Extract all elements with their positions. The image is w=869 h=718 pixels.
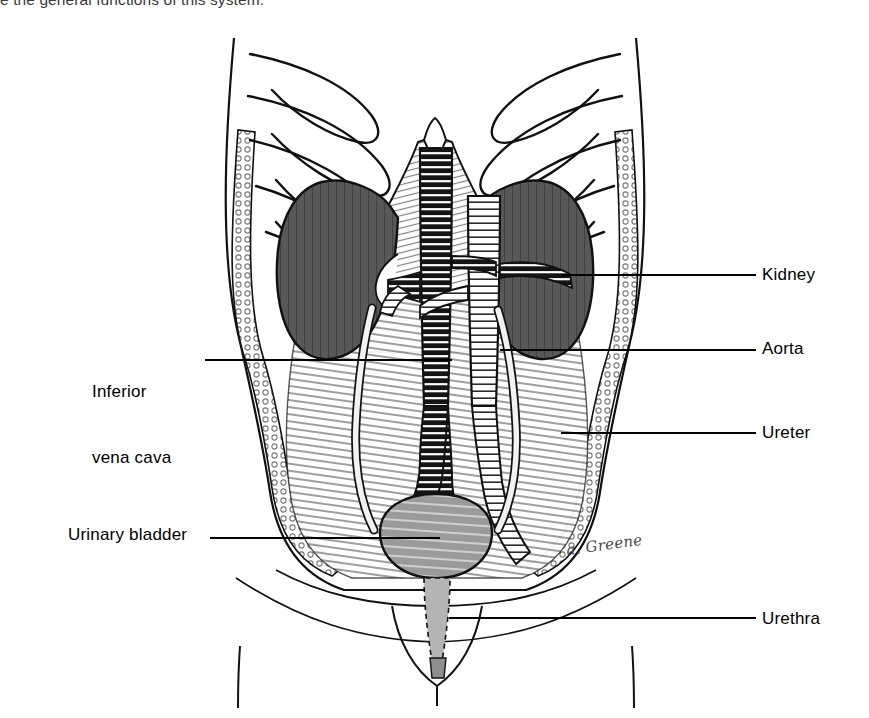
label-kidney: Kidney bbox=[762, 264, 815, 286]
label-ureter: Ureter bbox=[762, 422, 810, 444]
abdominal-aorta bbox=[420, 148, 452, 406]
inferior-vena-cava bbox=[468, 196, 500, 406]
urethra bbox=[392, 578, 482, 706]
page-canvas: e the general functions of this system. bbox=[0, 0, 869, 718]
urinary-bladder bbox=[380, 494, 492, 578]
label-aorta: Aorta bbox=[762, 338, 804, 360]
label-urinary-bladder: Urinary bladder bbox=[68, 524, 246, 546]
label-inferior-vena-cava-line2: vena cava bbox=[92, 447, 242, 469]
label-inferior-vena-cava-line1: Inferior bbox=[92, 381, 242, 403]
label-urethra: Urethra bbox=[762, 608, 820, 630]
label-inferior-vena-cava: Inferior vena cava bbox=[92, 337, 242, 513]
